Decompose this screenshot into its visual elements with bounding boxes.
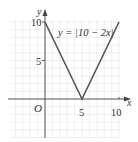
y-tick-label-5: 5 (36, 56, 41, 67)
y-tick-label-10: 10 (31, 17, 42, 28)
x-tick-label-10: 10 (111, 107, 122, 118)
y-axis-label: y (36, 6, 42, 17)
x-axis-label: x (126, 97, 132, 108)
function-label: y = |10 − 2x| (57, 27, 114, 38)
y-axis-arrow-icon (43, 9, 48, 16)
x-tick-label-5: 5 (79, 107, 84, 118)
absolute-value-graph: y x O y = |10 − 2x| 10 5 5 10 (0, 0, 138, 142)
origin-label: O (34, 102, 42, 114)
